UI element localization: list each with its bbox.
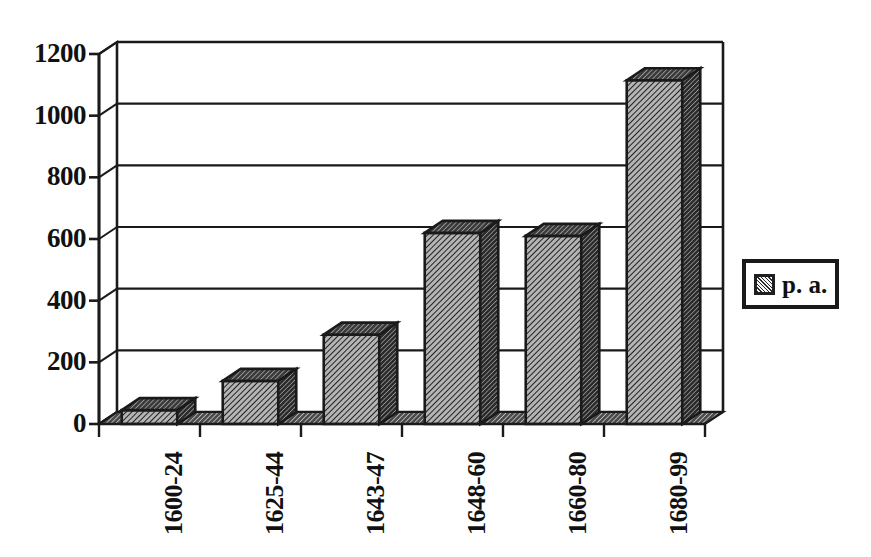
x-axis-tick-label: 1660-80: [565, 452, 591, 535]
x-axis-tick-label: 1643-47: [363, 452, 389, 535]
bar-chart-figure: 020040060080010001200 1600-241625-441643…: [0, 0, 871, 557]
x-axis-tick-label: 1680-99: [666, 452, 692, 535]
x-axis-tick-label: 1625-44: [262, 452, 288, 535]
x-axis-label-group: 1600-241625-441643-471648-601660-801680-…: [0, 0, 871, 557]
x-axis-tick-label: 1600-24: [161, 452, 187, 535]
legend-label: p. a.: [782, 272, 827, 297]
legend-swatch-icon: [754, 274, 775, 295]
x-axis-tick-label: 1648-60: [464, 452, 490, 535]
chart-legend: p. a.: [742, 259, 839, 309]
